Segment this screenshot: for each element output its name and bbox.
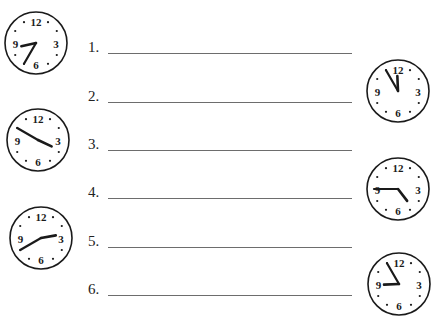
row-number: 1.	[88, 39, 99, 56]
row-number: 4.	[88, 184, 99, 201]
clock-number-12: 12	[394, 257, 406, 269]
clock-number-3: 3	[415, 184, 421, 196]
clock-number-6: 6	[35, 156, 41, 168]
clock-icon: 12369	[3, 10, 69, 76]
clock-number-3: 3	[416, 279, 422, 291]
clock-number-12: 12	[33, 113, 45, 125]
clock-number-12: 12	[31, 16, 43, 28]
clock-number-12: 12	[36, 211, 48, 223]
clock-icon: 12369	[5, 107, 71, 173]
answer-line[interactable]	[108, 102, 352, 103]
answer-line[interactable]	[108, 247, 352, 248]
clock-number-6: 6	[38, 254, 44, 266]
answer-line[interactable]	[108, 150, 352, 151]
clock-number-6: 6	[395, 107, 401, 119]
row-number: 2.	[88, 88, 99, 105]
clock-number-3: 3	[53, 38, 59, 50]
clock-number-9: 9	[376, 279, 382, 291]
answer-line[interactable]	[108, 198, 352, 199]
clock-icon: 12369	[366, 251, 432, 317]
clock-number-9: 9	[13, 38, 19, 50]
clock-number-6: 6	[33, 59, 39, 71]
clock-number-6: 6	[396, 300, 402, 312]
clock-number-9: 9	[375, 86, 381, 98]
hour-hand	[384, 284, 399, 285]
clock-icon: 12369	[365, 58, 431, 124]
answer-line[interactable]	[108, 295, 352, 296]
row-number: 5.	[88, 233, 99, 250]
clock-number-12: 12	[393, 162, 405, 174]
clock-number-6: 6	[395, 205, 401, 217]
answer-line[interactable]	[108, 53, 352, 54]
clock-number-9: 9	[15, 135, 21, 147]
clock-number-3: 3	[55, 135, 61, 147]
clock-icon: 12369	[8, 205, 74, 271]
clock-number-12: 12	[393, 64, 405, 76]
row-number: 6.	[88, 281, 99, 298]
clock-number-3: 3	[58, 233, 64, 245]
clock-number-9: 9	[18, 233, 24, 245]
clock-icon: 12369	[365, 156, 431, 222]
clock-number-3: 3	[415, 86, 421, 98]
row-number: 3.	[88, 136, 99, 153]
